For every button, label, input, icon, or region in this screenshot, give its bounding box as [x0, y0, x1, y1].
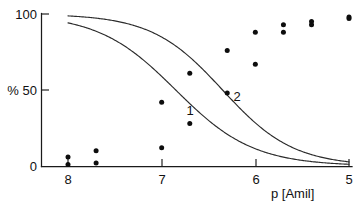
x-tick-label-6: 6: [252, 172, 259, 187]
data-point: [159, 145, 164, 150]
curve-label-2: 2: [233, 89, 240, 104]
curve-1: [68, 23, 349, 164]
x-tick-label-5: 5: [345, 172, 352, 187]
data-point: [225, 48, 230, 53]
y-tick-label-0: 0: [30, 159, 37, 174]
dose-response-chart: 100 % 50 0 8 7 6 5 p [Amil] 12: [0, 0, 358, 201]
y-tick-marks: [42, 14, 50, 90]
data-point: [225, 91, 230, 96]
axes-group: [42, 14, 353, 167]
x-tick-label-8: 8: [64, 172, 71, 187]
data-point: [66, 154, 71, 159]
x-tick-marks: [68, 159, 349, 167]
x-axis-title: p [Amil]: [271, 186, 314, 201]
data-point: [94, 160, 99, 165]
y-tick-label-50: % 50: [7, 83, 37, 98]
data-point: [309, 22, 314, 27]
data-points-series-2: [66, 16, 352, 167]
data-point: [253, 30, 258, 35]
data-point: [281, 22, 286, 27]
data-point: [187, 71, 192, 76]
data-point: [281, 30, 286, 35]
curve-label-layer: 12: [187, 89, 241, 118]
y-tick-label-100: 100: [15, 7, 37, 22]
data-point: [66, 162, 71, 167]
curve-label-1: 1: [187, 103, 194, 118]
figure-container: 100 % 50 0 8 7 6 5 p [Amil] 12: [0, 0, 358, 201]
data-point: [159, 100, 164, 105]
x-tick-label-7: 7: [158, 172, 165, 187]
data-point: [253, 62, 258, 67]
data-point: [94, 148, 99, 153]
data-point: [187, 121, 192, 126]
series-layer: [66, 15, 352, 167]
data-point: [347, 16, 352, 21]
